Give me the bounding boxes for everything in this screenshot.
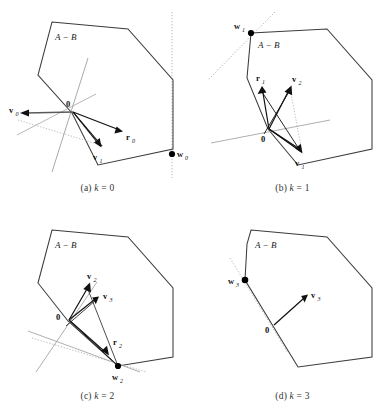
svg-text:2: 2 <box>120 378 123 384</box>
svg-text:w: w <box>228 276 235 286</box>
point-w1 <box>248 30 254 36</box>
label-v3: v 3 <box>311 290 321 302</box>
panel-b: A − B 0 w 1 r 1 v 2 v 1 (b) k = 1 <box>195 0 390 208</box>
label-r1: r 1 <box>256 73 265 85</box>
origin-label-d: 0 <box>265 325 269 335</box>
caption-a-var: k <box>94 183 98 193</box>
set-label-c: A − B <box>54 240 77 250</box>
label-v2: v 2 <box>292 74 302 86</box>
origin-label-c: 0 <box>56 312 60 322</box>
label-v0: v 0 <box>9 105 19 117</box>
panel-d: A − B 0 w 3 v 3 (d) k = 3 <box>195 208 390 416</box>
caption-a-prefix: (a) <box>81 183 92 193</box>
svg-text:1: 1 <box>302 164 305 170</box>
label-w1: w 1 <box>234 21 245 33</box>
origin-label-a: 0 <box>66 99 70 109</box>
supporting-line-dotted <box>32 338 146 372</box>
set-label-d: A − B <box>254 240 277 250</box>
svg-text:0: 0 <box>185 155 188 161</box>
caption-c-var: k <box>94 391 98 401</box>
caption-b-prefix: (b) <box>275 183 287 193</box>
figure-container: A − B 0 v 0 v 1 r 0 w 0 (a) k = 0 <box>0 0 390 416</box>
vector-v0 <box>20 109 73 116</box>
label-w0: w 0 <box>177 149 188 161</box>
vector-v3 <box>274 295 308 326</box>
label-r2: r 2 <box>113 337 122 349</box>
supporting-line-dotted <box>230 258 288 353</box>
svg-text:w: w <box>234 21 241 31</box>
panel-c-graphic: A − B 0 v 2 v 3 r 2 w 2 <box>0 208 195 416</box>
caption-d-value: 3 <box>305 391 310 401</box>
caption-c-prefix: (c) <box>81 391 92 401</box>
caption-c-value: 2 <box>109 391 114 401</box>
caption-a: (a) k = 0 <box>0 183 195 193</box>
svg-text:w: w <box>112 372 119 382</box>
label-w2: w 2 <box>112 372 123 384</box>
svg-text:2: 2 <box>94 277 97 283</box>
svg-text:w: w <box>177 149 184 159</box>
caption-d-var: k <box>290 391 294 401</box>
label-w3: w 3 <box>228 276 239 288</box>
separating-line-2 <box>28 331 140 372</box>
svg-text:1: 1 <box>100 158 103 164</box>
vector-r2 <box>69 320 109 356</box>
svg-text:3: 3 <box>235 282 239 288</box>
svg-text:r: r <box>256 73 260 83</box>
minkowski-difference-polygon <box>245 230 372 367</box>
point-w2 <box>115 363 121 369</box>
svg-text:v: v <box>87 271 92 281</box>
panel-d-graphic: A − B 0 w 3 v 3 <box>195 208 390 416</box>
panel-a-graphic: A − B 0 v 0 v 1 r 0 w 0 <box>0 0 195 208</box>
svg-text:v: v <box>103 291 108 301</box>
svg-text:0: 0 <box>132 138 135 144</box>
caption-d-prefix: (d) <box>275 391 287 401</box>
svg-text:v: v <box>311 290 316 300</box>
svg-text:3: 3 <box>109 297 113 303</box>
label-r0: r 0 <box>126 132 135 144</box>
caption-b-value: 1 <box>305 183 310 193</box>
svg-text:1: 1 <box>242 27 245 33</box>
set-label-a: A − B <box>54 32 77 42</box>
svg-text:v: v <box>295 158 300 168</box>
separating-line-1 <box>36 282 97 372</box>
construction-line-dotted <box>290 88 302 152</box>
svg-text:v: v <box>292 74 297 84</box>
origin-label-b: 0 <box>261 134 265 144</box>
label-v1: v 1 <box>93 152 103 164</box>
svg-text:2: 2 <box>299 80 302 86</box>
caption-c: (c) k = 2 <box>0 391 195 401</box>
svg-text:1: 1 <box>262 79 265 85</box>
vector-v3 <box>69 297 99 321</box>
point-w3 <box>242 277 249 284</box>
svg-text:r: r <box>113 337 117 347</box>
caption-a-value: 0 <box>109 183 114 193</box>
svg-text:r: r <box>126 132 130 142</box>
label-v3: v 3 <box>103 291 113 303</box>
minkowski-difference-polygon <box>38 22 173 165</box>
svg-text:0: 0 <box>16 111 19 117</box>
point-w0 <box>169 151 175 157</box>
label-v2: v 2 <box>87 271 97 283</box>
caption-b-var: k <box>290 183 294 193</box>
panel-c: A − B 0 v 2 v 3 r 2 w 2 (c) k = 2 <box>0 208 195 416</box>
set-label-b: A − B <box>257 40 280 50</box>
svg-text:2: 2 <box>119 343 122 349</box>
svg-text:3: 3 <box>317 296 321 302</box>
caption-d: (d) k = 3 <box>195 391 390 401</box>
svg-text:v: v <box>93 152 98 162</box>
caption-b: (b) k = 1 <box>195 183 390 193</box>
panel-b-graphic: A − B 0 w 1 r 1 v 2 v 1 <box>195 0 390 208</box>
svg-text:v: v <box>9 105 14 115</box>
separating-line-1 <box>52 58 88 172</box>
label-v1: v 1 <box>295 158 305 170</box>
vector-v2 <box>269 86 292 130</box>
panel-a: A − B 0 v 0 v 1 r 0 w 0 (a) k = 0 <box>0 0 195 208</box>
